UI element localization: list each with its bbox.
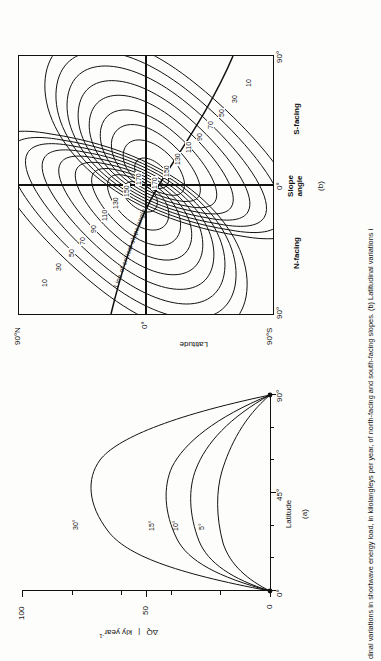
- curve-label-5: 5°: [198, 523, 205, 530]
- x-tick-minor: [270, 427, 274, 428]
- panel-a-curves: [22, 395, 270, 591]
- y-tick-minor: [220, 591, 221, 595]
- curve-label-10: 10°: [172, 520, 179, 531]
- panel-b-xtick-left-90: 90°: [276, 307, 284, 319]
- endpoint-marker-left: [268, 589, 273, 594]
- endpoint-marker-right: [268, 393, 273, 398]
- curve-30deg: [91, 395, 270, 591]
- panel-a-xtick-0: 0°: [276, 589, 284, 597]
- x-group-slope-angle-line1: Slope: [286, 175, 295, 197]
- panel-b-ytick-0: 0°: [141, 321, 149, 329]
- x-tick-minor: [270, 525, 274, 526]
- x-group-slope-angle-line2: angle: [295, 176, 304, 197]
- x-tick-minor: [270, 557, 274, 558]
- contour-50-right: [67, 66, 267, 226]
- contour-label-30-a: 30: [55, 262, 62, 272]
- panel-a-ylabel-units: kly year: [104, 628, 132, 637]
- contour-label-70-a: 70: [79, 236, 86, 246]
- panel-a-ytick-50: 50: [142, 606, 150, 615]
- panel-b-center-horizontal-line: [145, 56, 146, 314]
- panel-a-x-axis: [270, 395, 271, 591]
- panel-a-ytick-0: 0: [266, 605, 274, 609]
- x-group-s-facing: S-facing: [292, 79, 301, 159]
- contour-label-170-a: 170: [135, 172, 142, 186]
- contour-label-30-b: 30: [231, 94, 238, 104]
- figure-rotation-wrapper: 0 50 100 0° 45° 90° 30° 15° 10° 5°: [0, 0, 381, 661]
- y-tick-major: [146, 591, 147, 597]
- curve-5deg: [218, 395, 270, 591]
- y-tick-minor: [171, 591, 172, 595]
- contour-label-50-a: 50: [68, 248, 75, 258]
- panel-a-ylabel-symbol: ΔQ: [146, 628, 158, 637]
- y-tick-minor: [72, 591, 73, 595]
- contour-50-left: [25, 144, 225, 304]
- panel-b: 170 150 130 110 90 70 50 30 10 170 150 1…: [8, 31, 338, 361]
- panel-a: 0 50 100 0° 45° 90° 30° 15° 10° 5°: [8, 385, 338, 643]
- curve-10deg: [191, 395, 270, 591]
- panel-b-xtick-mid-0: 0°: [276, 182, 284, 190]
- panel-b-ytick-90S: 90°S: [266, 328, 274, 345]
- contour-label-110-a: 110: [101, 209, 108, 222]
- panel-b-plot-frame: 170 150 130 110 90 70 50 30 10 170 150 1…: [18, 55, 274, 315]
- panel-b-y-axis-label: Latitude: [180, 340, 208, 349]
- contour-label-90-a: 90: [90, 224, 97, 234]
- contour-label-110-b: 110: [185, 141, 192, 154]
- curve-label-30: 30°: [72, 519, 79, 530]
- panel-a-ylabel-exponent: -1: [99, 633, 104, 639]
- x-tick-minor: [270, 459, 274, 460]
- figure-caption: dinal variations in shortwave energy loa…: [366, 4, 380, 659]
- contour-label-150-a: 150: [123, 184, 130, 198]
- y-tick-major: [22, 591, 23, 597]
- contour-label-170-b: 170: [151, 176, 158, 190]
- contour-label-10-b: 10: [245, 78, 252, 88]
- contour-label-10-a: 10: [41, 278, 48, 288]
- panel-a-y-axis-label: ΔQ | kly year-1: [99, 628, 158, 639]
- contour-label-50-b: 50: [218, 108, 225, 118]
- panel-a-x-axis-label: Latitude: [284, 385, 293, 643]
- contour-label-130-b: 130: [174, 152, 181, 166]
- panel-a-xtick-90: 90°: [276, 390, 284, 402]
- contour-label-130-a: 130: [112, 196, 119, 210]
- panel-b-xtick-right-90: 90°: [276, 51, 284, 63]
- panel-b-ytick-90N: 90°N: [14, 327, 22, 345]
- panel-a-ytick-100: 100: [18, 607, 26, 620]
- y-tick-minor: [121, 591, 122, 595]
- panel-a-ylabel-divider: |: [134, 628, 144, 637]
- panel-a-tag: (a): [300, 385, 309, 643]
- panel-b-x-group-labels: N-facing Slope angle S-facing: [290, 57, 312, 315]
- panel-a-xtick-45: 45°: [276, 489, 284, 501]
- curve-label-15: 15°: [148, 520, 155, 531]
- contour-label-70-b: 70: [207, 120, 214, 130]
- figure: 0 50 100 0° 45° 90° 30° 15° 10° 5°: [0, 0, 381, 661]
- contour-label-90-b: 90: [196, 132, 203, 142]
- panel-b-tag: (b): [316, 57, 325, 315]
- contour-label-150-b: 150: [163, 164, 170, 178]
